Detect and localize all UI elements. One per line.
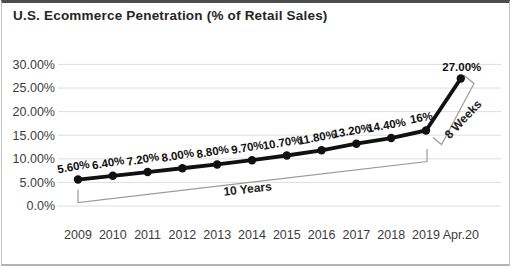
x-tick-label: Apr.20 <box>443 228 479 242</box>
data-point <box>283 151 291 159</box>
y-tick-label: 20.00% <box>13 105 55 119</box>
x-tick-label: 2017 <box>342 228 370 242</box>
x-tick-label: 2016 <box>308 228 336 242</box>
data-point-label: 6.40% <box>91 154 125 171</box>
data-point <box>109 172 117 180</box>
y-tick-label: 25.00% <box>13 81 55 95</box>
x-tick-label: 2014 <box>238 228 266 242</box>
x-tick-label: 2011 <box>134 228 161 242</box>
gridlines <box>58 64 501 206</box>
y-tick-label: 0.0% <box>27 199 56 213</box>
x-tick-label: 2019 <box>412 228 440 242</box>
data-point-label: 8.00% <box>161 147 195 164</box>
x-tick-label: 2015 <box>273 228 301 242</box>
chart-title: U.S. Ecommerce Penetration (% of Retail … <box>13 8 328 23</box>
data-point-label: 9.70% <box>230 139 264 156</box>
data-point-label: 14.40% <box>366 116 407 135</box>
x-axis-labels: 2009201020112012201320142015201620172018… <box>64 228 479 242</box>
y-tick-label: 10.00% <box>13 152 55 166</box>
y-tick-label: 5.00% <box>20 176 55 190</box>
data-point <box>457 74 465 82</box>
data-point-label: 8.80% <box>195 143 229 160</box>
series <box>74 74 465 183</box>
y-tick-label: 15.00% <box>13 129 55 143</box>
data-point <box>248 156 256 164</box>
x-tick-label: 2009 <box>64 228 92 242</box>
data-point-label: 5.60% <box>56 158 90 175</box>
x-tick-label: 2012 <box>168 228 196 242</box>
x-tick-label: 2018 <box>377 228 405 242</box>
data-point-label: 27.00% <box>442 61 481 73</box>
data-point <box>422 126 430 134</box>
data-point <box>387 134 395 142</box>
data-point <box>352 139 360 147</box>
data-point-label: 11.80% <box>297 128 337 146</box>
x-tick-label: 2013 <box>203 228 231 242</box>
y-tick-label: 30.00% <box>13 58 55 72</box>
y-axis-labels: 30.00%25.00%20.00%15.00%10.00%5.00%0.0% <box>13 58 55 214</box>
data-point-label: 7.20% <box>126 150 160 167</box>
data-point <box>178 164 186 172</box>
data-point <box>213 160 221 168</box>
data-point <box>143 168 151 176</box>
data-point <box>317 146 325 154</box>
line-chart: 30.00%25.00%20.00%15.00%10.00%5.00%0.0% … <box>0 0 512 276</box>
x-tick-label: 2010 <box>99 228 127 242</box>
data-point <box>74 175 82 183</box>
